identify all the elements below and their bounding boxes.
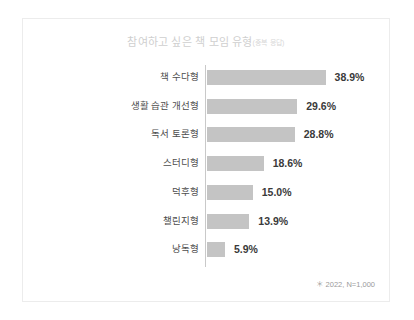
bar	[207, 127, 295, 142]
bar-category-label: 덕후형	[23, 182, 199, 202]
bar-category-label: 책 수다형	[23, 67, 199, 87]
chart-title-main: 참여하고 싶은 책 모임 유형	[127, 36, 252, 48]
bar-chart-plot: 책 수다형38.9%생활 습관 개선형29.6%독서 토론형28.8%스터디형1…	[23, 63, 391, 269]
bar	[207, 99, 297, 114]
bar-row: 책 수다형38.9%	[23, 67, 391, 87]
bar-category-label: 독서 토론형	[23, 124, 199, 144]
bar-row: 스터디형18.6%	[23, 153, 391, 173]
bar-value-label: 18.6%	[273, 153, 303, 173]
chart-card: 참여하고 싶은 책 모임 유형(중복 응답) 책 수다형38.9%생활 습관 개…	[22, 18, 390, 302]
page-title: 참여하고 싶은 책 모임 유형(중복 응답)	[23, 33, 389, 49]
bar-category-label: 챌린지형	[23, 211, 199, 231]
bar	[207, 185, 253, 200]
bar-category-label: 생활 습관 개선형	[23, 96, 199, 116]
bar-value-label: 15.0%	[262, 182, 292, 202]
bar	[207, 214, 249, 229]
bar-value-label: 29.6%	[306, 96, 336, 116]
bar-row: 생활 습관 개선형29.6%	[23, 96, 391, 116]
chart-footnote: ＊ 2022, N=1,000	[316, 278, 375, 289]
bar-value-label: 13.9%	[258, 211, 288, 231]
bar	[207, 70, 326, 85]
bar-row: 덕후형15.0%	[23, 182, 391, 202]
bar-category-label: 스터디형	[23, 153, 199, 173]
bar-row: 독서 토론형28.8%	[23, 124, 391, 144]
bar-row: 낭독형5.9%	[23, 239, 391, 259]
bar-value-label: 5.9%	[234, 239, 258, 259]
bar-row: 챌린지형13.9%	[23, 211, 391, 231]
bar-category-label: 낭독형	[23, 239, 199, 259]
bar	[207, 242, 225, 257]
bar-value-label: 28.8%	[304, 124, 334, 144]
bar	[207, 156, 264, 171]
chart-title-note: (중복 응답)	[253, 39, 285, 46]
bar-value-label: 38.9%	[335, 67, 365, 87]
